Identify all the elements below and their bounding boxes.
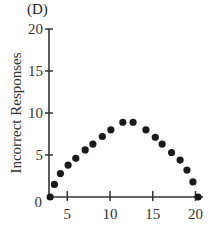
y-tick-label: 0: [35, 194, 43, 210]
data-point: [189, 178, 196, 185]
data-point: [47, 193, 54, 200]
data-point: [57, 170, 64, 177]
data-point: [119, 119, 126, 126]
data-point: [89, 140, 96, 147]
x-tick-label: 10: [103, 206, 118, 222]
y-tick-label: 15: [28, 63, 43, 79]
y-tick-label: 20: [28, 21, 43, 37]
data-point: [142, 126, 149, 133]
x-tick-label: 5: [64, 206, 72, 222]
data-point: [177, 156, 184, 163]
data-point: [168, 149, 175, 156]
y-axis-label: Incorrect Responses: [8, 52, 24, 173]
data-point: [107, 126, 114, 133]
data-point: [82, 146, 89, 153]
x-tick-label: 20: [188, 206, 203, 222]
x-tick-label: 15: [145, 206, 160, 222]
data-point: [129, 119, 136, 126]
y-tick-label: 5: [36, 147, 44, 163]
data-point: [183, 167, 190, 174]
data-point: [99, 133, 106, 140]
data-point: [159, 140, 166, 147]
y-tick-label: 10: [28, 105, 43, 121]
data-point: [72, 155, 79, 162]
data-point: [152, 134, 159, 141]
data-point: [65, 161, 72, 168]
data-point: [194, 193, 201, 200]
scatter-chart: 051015205101520Incorrect Responses: [0, 0, 218, 236]
data-point: [51, 181, 58, 188]
